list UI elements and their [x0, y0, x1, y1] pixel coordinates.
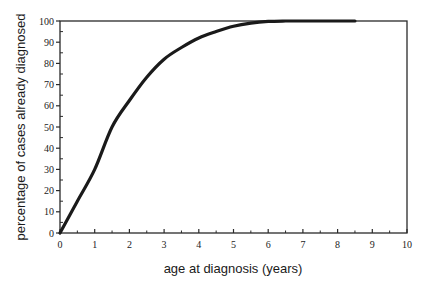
chart: 0102030405060708090100 012345678910 age …	[0, 0, 428, 289]
y-tick-label: 40	[44, 143, 54, 154]
x-tick-label: 6	[266, 239, 271, 250]
y-tick-label: 50	[44, 122, 54, 133]
x-tick-label: 8	[335, 239, 340, 250]
y-axis-title: percentage of cases already diagnosed	[13, 14, 28, 241]
x-tick-label: 5	[231, 239, 236, 250]
x-tick-label: 4	[196, 239, 201, 250]
x-tick-label: 1	[92, 239, 97, 250]
y-tick-label: 30	[44, 164, 54, 175]
line-chart: 0102030405060708090100 012345678910 age …	[0, 0, 428, 289]
y-tick-label: 60	[44, 100, 54, 111]
x-axis: 012345678910	[58, 229, 413, 250]
data-line	[60, 21, 355, 233]
x-axis-title: age at diagnosis (years)	[164, 261, 303, 276]
y-tick-label: 100	[39, 16, 54, 27]
x-tick-label: 7	[300, 239, 305, 250]
y-tick-label: 70	[44, 79, 54, 90]
y-tick-label: 90	[44, 37, 54, 48]
x-tick-label: 10	[402, 239, 412, 250]
x-tick-label: 2	[127, 239, 132, 250]
x-tick-label: 9	[370, 239, 375, 250]
y-tick-label: 10	[44, 206, 54, 217]
y-tick-label: 20	[44, 185, 54, 196]
y-tick-label: 0	[49, 228, 54, 239]
x-tick-label: 0	[58, 239, 63, 250]
y-tick-label: 80	[44, 58, 54, 69]
x-tick-label: 3	[162, 239, 167, 250]
